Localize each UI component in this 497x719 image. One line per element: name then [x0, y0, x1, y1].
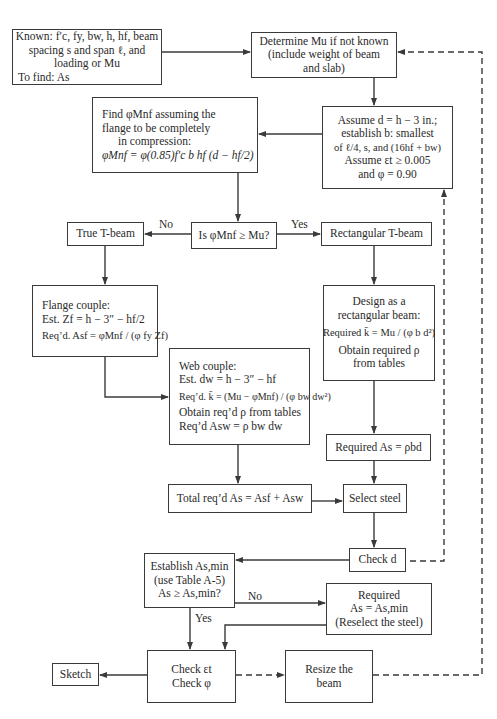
node-true-tbeam: True T-beam [67, 222, 144, 246]
design-rect-line-3: Obtain required ρ [338, 344, 419, 358]
check-et-line-2: Check φ [172, 677, 211, 691]
check-d-text: Check d [358, 553, 396, 567]
node-known-inputs: Known: f′c, fy, bw, h, hf, beam spacing … [12, 29, 162, 85]
flange-couple-line-2: Est. Zf = h − 3″ − hf/2 [38, 313, 145, 327]
design-rect-line-2: rectangular beam: [338, 309, 421, 323]
flange-couple-formula: Req’d. Asf = φMnf / (φ fy Zf) [38, 329, 168, 343]
node-total-as: Total req’d As = Asf + Asw [168, 484, 312, 513]
decision-text: Is φMnf ≥ Mu? [199, 229, 270, 243]
node-select-steel: Select steel [343, 484, 407, 513]
assume-d-line-5: and φ = 0.90 [358, 168, 416, 182]
node-required-asmin: Required As = As,min (Reselect the steel… [326, 583, 432, 635]
node-decision-phi-mnf-ge-mu: Is φMnf ≥ Mu? [191, 222, 277, 249]
known-line-3: loading or Mu [54, 57, 120, 71]
node-web-couple: Web couple: Est. dw = h − 3″ − hf Req’d.… [169, 348, 310, 445]
known-line-2: spacing s and span ℓ, and [29, 44, 146, 58]
known-line-1: Known: f′c, fy, bw, h, hf, beam [16, 30, 159, 44]
edge-label-yes: Yes [291, 218, 308, 230]
edge-label-yes-asmin: Yes [195, 612, 212, 624]
design-rect-line-4: from tables [353, 357, 405, 371]
establish-line-3: As ≥ As,min? [158, 587, 221, 601]
check-et-line-1: Check εt [171, 663, 211, 677]
design-rect-line-1: Design as a [352, 295, 405, 309]
determine-mu-line-1: Determine Mu if not known [259, 35, 388, 49]
find-phi-mnf-line-2: flange to be completely [98, 122, 210, 136]
required-asmin-line-1: Required [358, 589, 400, 603]
node-design-rectangular: Design as a rectangular beam: Required k… [323, 285, 435, 381]
total-as-text: Total req’d As = Asf + Asw [177, 492, 304, 506]
edge-label-no: No [159, 218, 173, 230]
node-find-phi-mnf: Find φMnf assuming the flange to be comp… [92, 97, 258, 173]
resize-line-2: beam [317, 677, 342, 691]
select-steel-text: Select steel [349, 492, 401, 506]
assume-d-line-2: establish b: smallest [341, 127, 434, 141]
node-check-d: Check d [349, 548, 406, 572]
web-couple-formula: Req’d. k̄ = (Mu − φMnf) / (φ bw dw²) [175, 390, 331, 404]
sketch-text: Sketch [60, 668, 91, 682]
node-establish-asmin: Establish As,min (use Table A-5) As ≥ As… [144, 553, 235, 608]
node-flange-couple: Flange couple: Est. Zf = h − 3″ − hf/2 R… [32, 285, 158, 357]
rect-tbeam-text: Rectangular T-beam [330, 227, 423, 241]
web-couple-line-2: Est. dw = h − 3″ − hf [175, 373, 276, 387]
flange-couple-line-1: Flange couple: [38, 299, 110, 313]
node-assume-d: Assume d = h − 3 in.; establish b: small… [322, 106, 453, 189]
assume-d-line-3: of ℓ/4, s, and (16hf + bw) [334, 141, 441, 155]
web-couple-line-1: Web couple: [175, 360, 237, 374]
node-check-et-phi: Check εt Check φ [147, 650, 236, 703]
node-rectangular-tbeam: Rectangular T-beam [321, 222, 432, 246]
establish-line-1: Establish As,min [151, 560, 229, 574]
determine-mu-line-3: and slab) [303, 62, 345, 76]
assume-d-line-4: Assume εt ≥ 0.005 [345, 154, 431, 168]
required-as-text: Required As = ρbd [335, 441, 422, 455]
find-phi-mnf-line-1: Find φMnf assuming the [98, 108, 216, 122]
node-sketch: Sketch [52, 663, 99, 686]
required-asmin-line-3: (Reselect the steel) [335, 616, 423, 630]
required-asmin-line-2: As = As,min [350, 602, 408, 616]
web-couple-line-4: Req’d Asw = ρ bw dw [175, 420, 282, 434]
find-phi-mnf-formula: φMnf = φ(0.85)f′c b hf (d − hf/2) [98, 149, 254, 163]
establish-line-2: (use Table A-5) [154, 574, 225, 588]
web-couple-line-3: Obtain req’d ρ from tables [175, 406, 301, 420]
resize-line-1: Resize the [305, 663, 353, 677]
true-tbeam-text: True T-beam [76, 227, 135, 241]
determine-mu-line-2: (include weight of beam [268, 48, 380, 62]
node-determine-mu: Determine Mu if not known (include weigh… [251, 32, 397, 78]
find-phi-mnf-line-3: in compression: [98, 135, 191, 149]
design-rect-formula: Required k̄ = Mu / (φ b d²) [323, 326, 435, 340]
node-resize-beam: Resize the beam [285, 650, 373, 703]
edge-label-no-asmin: No [248, 590, 262, 602]
known-line-4: To find: As [18, 71, 70, 85]
node-required-as: Required As = ρbd [326, 434, 431, 461]
assume-d-line-1: Assume d = h − 3 in.; [338, 114, 438, 128]
